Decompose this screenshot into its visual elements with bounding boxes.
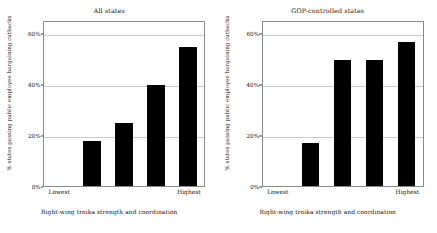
x-tick-label xyxy=(359,189,391,195)
x-tick-label xyxy=(294,189,326,195)
panel-title: GOP-controlled states xyxy=(219,7,437,14)
bar-series xyxy=(44,22,204,186)
x-axis-ticks: LowestHighest xyxy=(262,189,424,195)
plot-area xyxy=(262,21,424,187)
x-tick-label xyxy=(140,189,172,195)
bar-slot xyxy=(172,22,204,186)
bar-slot xyxy=(140,22,172,186)
bar xyxy=(366,60,384,186)
bar xyxy=(334,60,352,186)
x-tick-label: Lowest xyxy=(262,189,294,195)
bar-slot xyxy=(44,22,76,186)
bar-series xyxy=(263,22,423,186)
x-axis-label: Right-wing troika strength and coordinat… xyxy=(0,209,219,215)
x-tick-label: Highest xyxy=(173,189,205,195)
y-axis-ticks: 0%20%40%60% xyxy=(219,21,262,187)
bar-slot xyxy=(295,22,327,186)
bar xyxy=(147,85,165,186)
bar xyxy=(115,123,133,186)
panel-gop-controlled-states: GOP-controlled states % states passing p… xyxy=(219,0,437,233)
plot-area xyxy=(43,21,205,187)
bar-slot xyxy=(391,22,423,186)
bar xyxy=(83,141,101,186)
y-axis-ticks: 0%20%40%60% xyxy=(0,21,43,187)
bar-slot xyxy=(76,22,108,186)
x-tick-label xyxy=(326,189,358,195)
panel-title: All states xyxy=(0,7,219,14)
bar-slot xyxy=(327,22,359,186)
bar xyxy=(398,42,416,186)
x-tick-label xyxy=(108,189,140,195)
x-tick-label xyxy=(75,189,107,195)
x-tick-label: Highest xyxy=(391,189,423,195)
bar xyxy=(179,47,197,186)
bar xyxy=(302,143,320,186)
panel-all-states: All states % states passing public emplo… xyxy=(0,0,219,233)
bar-slot xyxy=(359,22,391,186)
x-axis-ticks: LowestHighest xyxy=(43,189,205,195)
figure-two-panel-bar-chart: All states % states passing public emplo… xyxy=(0,0,437,233)
x-tick-label: Lowest xyxy=(43,189,75,195)
bar-slot xyxy=(263,22,295,186)
bar-slot xyxy=(108,22,140,186)
x-axis-label: Right-wing troika strength and coordinat… xyxy=(219,209,437,215)
